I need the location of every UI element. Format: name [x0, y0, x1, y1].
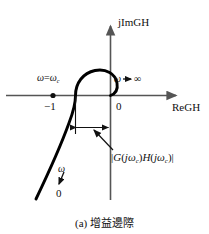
gain-margin-magnitude-label: |G(jωc)H(jωc)|	[111, 152, 174, 165]
imaginary-axis-label: jImGH	[118, 17, 149, 28]
omega-c-subscript: c	[57, 77, 60, 84]
omega-equals-omega-c-label: ω=ωc	[37, 73, 60, 84]
omega-c-symbol: ω	[50, 72, 57, 83]
magnitude-g: G	[113, 151, 121, 163]
omega-lower-branch-label: ω	[58, 164, 65, 174]
nyquist-plot-canvas	[0, 0, 209, 234]
nyquist-gain-margin-figure: jImGH ReGH ω=ωc −1 ω∞ 0 ω 0 |G(jωc)H(jωc…	[0, 0, 209, 234]
magnitude-omega-2: ω	[157, 151, 165, 163]
omega-symbol-inf: ω	[114, 73, 121, 84]
magnitude-close-bar: |	[172, 151, 174, 163]
figure-caption: (a) 增益邊際	[0, 214, 209, 230]
critical-point-label: −1	[44, 101, 56, 112]
critical-point-marker	[50, 93, 55, 98]
omega-symbol: ω	[37, 72, 44, 83]
origin-label: 0	[116, 101, 122, 112]
magnitude-omega-1: ω	[128, 151, 136, 163]
infinity-symbol: ∞	[134, 73, 141, 84]
omega-to-infinity-label: ω∞	[114, 74, 141, 84]
omega-zero-label: 0	[56, 188, 62, 199]
real-axis-label: ReGH	[172, 102, 200, 113]
nyquist-locus-curve	[36, 70, 117, 199]
